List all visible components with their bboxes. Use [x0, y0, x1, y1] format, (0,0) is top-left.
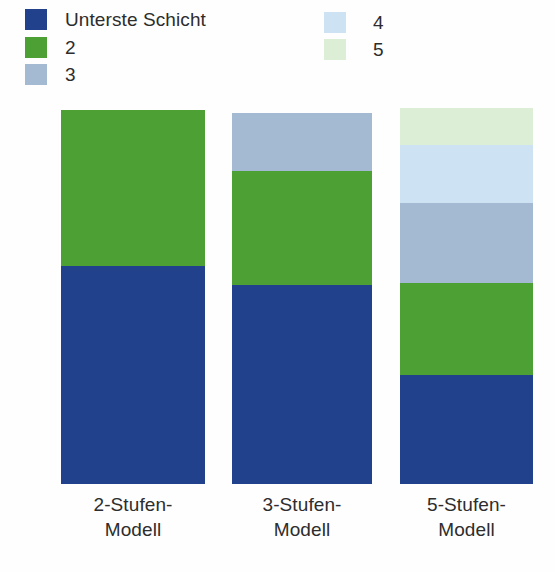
bar-segment-5-stufen-0[interactable]	[400, 108, 533, 145]
bar-segment-3-stufen-1[interactable]	[232, 171, 372, 285]
plot-area: 2-Stufen- Modell 3-Stufen- Modell	[0, 0, 555, 572]
bar-group-3-stufen[interactable]: 3-Stufen- Modell	[232, 113, 372, 484]
chart-root: Unterste Schicht 2 3 4 5	[0, 0, 555, 572]
bar-label-3-stufen-line2: Modell	[232, 517, 372, 542]
bar-label-2-stufen: 2-Stufen- Modell	[61, 492, 205, 542]
bar-label-2-stufen-line1: 2-Stufen-	[93, 494, 172, 515]
bar-segment-5-stufen-3[interactable]	[400, 283, 533, 375]
bar-group-2-stufen[interactable]: 2-Stufen- Modell	[61, 110, 205, 484]
bar-label-5-stufen-line2: Modell	[400, 517, 533, 542]
bar-segment-5-stufen-2[interactable]	[400, 203, 533, 283]
bar-group-5-stufen[interactable]: 5-Stufen- Modell	[400, 108, 533, 484]
bar-segment-2-stufen-0[interactable]	[61, 110, 205, 266]
bar-segment-3-stufen-0[interactable]	[232, 113, 372, 171]
bar-label-3-stufen: 3-Stufen- Modell	[232, 492, 372, 542]
stacked-bar-2-stufen	[61, 110, 205, 484]
figure-caption-clipped	[0, 560, 555, 572]
bar-label-2-stufen-line2: Modell	[61, 517, 205, 542]
bar-segment-5-stufen-4[interactable]	[400, 375, 533, 484]
bar-segment-3-stufen-2[interactable]	[232, 285, 372, 484]
stacked-bar-5-stufen	[400, 108, 533, 484]
bar-label-5-stufen-line1: 5-Stufen-	[427, 494, 506, 515]
bar-segment-2-stufen-1[interactable]	[61, 266, 205, 484]
bar-segment-5-stufen-1[interactable]	[400, 145, 533, 203]
bar-label-3-stufen-line1: 3-Stufen-	[262, 494, 341, 515]
stacked-bar-3-stufen	[232, 113, 372, 484]
bar-label-5-stufen: 5-Stufen- Modell	[400, 492, 533, 542]
